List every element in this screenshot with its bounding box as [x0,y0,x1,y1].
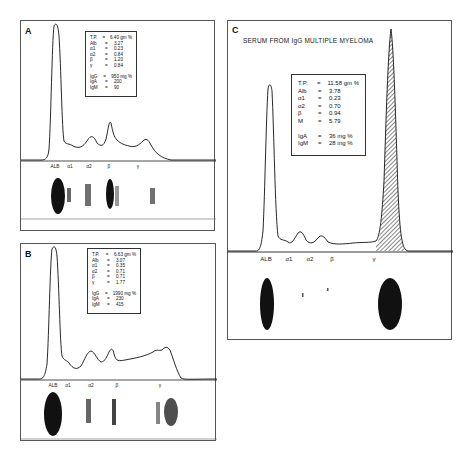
axis-label-alpha2: α2 [88,383,93,388]
densitometry-trace-c [228,21,453,341]
axis-label-alpha2: α2 [86,164,91,169]
data-box-a: T.P.=6.40 gm % Alb=3.27 α1=0.23 α2=0.84 … [85,31,137,97]
value-row: α2=0.70 [298,103,359,111]
axis-label-gamma: γ [159,383,161,388]
axis-label-gamma: γ [373,256,376,262]
axis-label-beta: β [108,164,111,169]
panel-letter: C [232,25,239,35]
axis-label-alb: ALB [48,383,57,388]
band-alb-b [44,392,62,436]
panel-subtitle: SERUM FROM IgG MULTIPLE MYELOMA [243,37,373,44]
panel-a: A T.P.=6.40 gm % Alb=3.27 α1=0.23 α2=0.8… [20,20,215,231]
axis-label-alpha1: α1 [67,164,72,169]
axis-label-alb: ALB [260,256,271,262]
value-row: Alb=3.78 [298,88,359,96]
axis-label-alpha1: α1 [286,256,293,262]
panel-letter: B [25,249,32,259]
value-row: β=0.94 [298,110,359,118]
ig-row: IgM=415 [92,302,136,308]
axis-label-alb: ALB [50,164,59,169]
data-box-c: T.P.=11.58 gm % Alb=3.78 α1=0.23 α2=0.70… [291,74,366,156]
value-row: M=5.79 [298,118,359,126]
band-alb-a [51,178,65,214]
panel-letter: A [25,26,32,36]
panel-c: C SERUM FROM IgG MULTIPLE MYELOMA T.P.=1… [227,20,452,340]
ig-row: IgM=28 mg % [298,140,359,148]
axis-label-beta: β [116,383,119,388]
band-m-spike-c [378,278,402,330]
data-box-b: T.P.=6.63 gm % Alb=3.07 α1=0.35 α2=0.71 … [87,248,141,314]
axis-label-beta: β [330,256,333,262]
axis-label-alpha2: α2 [307,256,314,262]
panel-b: B T.P.=6.63 gm % Alb=3.07 α1=0.35 α2=0.7… [20,243,216,441]
ig-row: IgM=90 [90,85,132,91]
band-alb-c [260,278,274,330]
axis-label-gamma: γ [137,164,139,169]
value-row: α1=0.23 [298,95,359,103]
value-row: T.P.=11.58 gm % [298,80,359,88]
axis-label-alpha1: α1 [65,383,70,388]
ig-row: IgA=36 mg % [298,133,359,141]
